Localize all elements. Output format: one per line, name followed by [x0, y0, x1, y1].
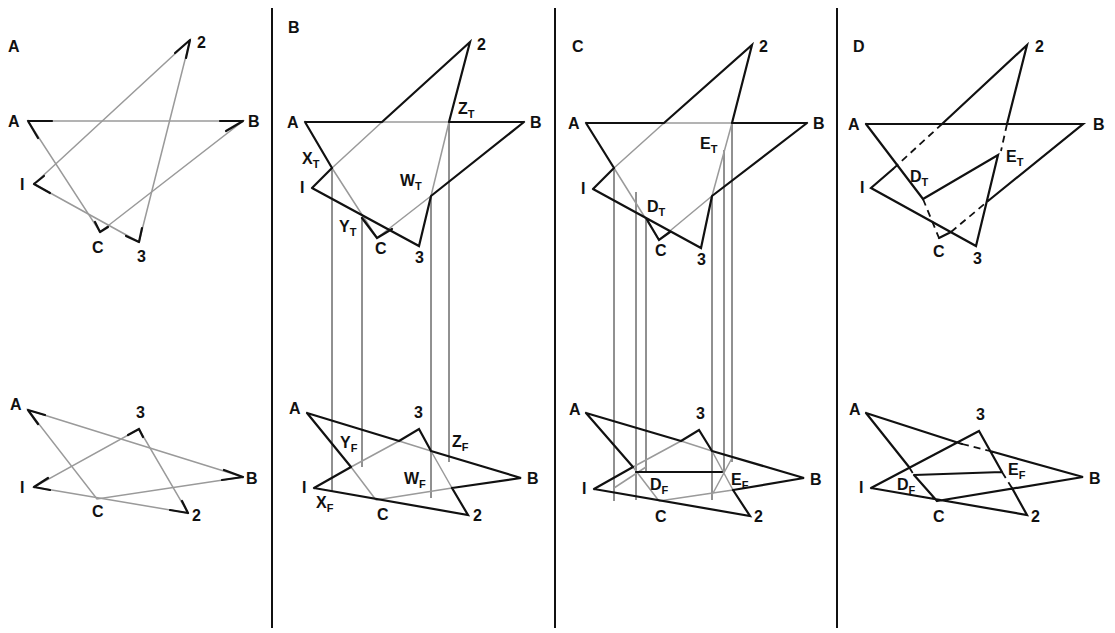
- hidden-edges: [351, 441, 452, 500]
- front-view: A B C I 2 3 DF EF: [569, 401, 822, 525]
- vertex-label-1: I: [860, 179, 864, 196]
- front-view: A B C I 2 3: [10, 396, 258, 524]
- hidden-edges: [614, 123, 732, 240]
- front-view: A B C I 2 3 DF EF: [849, 401, 1101, 525]
- visible-edges: [866, 413, 1083, 515]
- panel-b: B A B C I 2 3 XT YT WT ZT A: [287, 19, 542, 524]
- top-view: A B C I 2 3 XT YT WT ZT: [287, 36, 542, 266]
- vertex-label-c: C: [92, 239, 104, 256]
- vertex-label-b: B: [246, 470, 258, 487]
- vertex-label-b: B: [1093, 116, 1105, 133]
- top-view: A B C I 2 3 DT ET: [848, 38, 1105, 267]
- vertex-label-a: A: [849, 401, 861, 418]
- vertex-label-b: B: [527, 470, 539, 487]
- vertex-label-3: 3: [696, 405, 705, 422]
- vertex-label-b: B: [530, 114, 542, 131]
- visible-edges: [586, 413, 804, 516]
- panel-c: C A B C I 2 3 DT ET A B C I: [568, 38, 825, 525]
- point-label-yf: YF: [340, 434, 358, 454]
- plane-abc: [28, 410, 243, 499]
- vertex-label-b: B: [248, 113, 260, 130]
- panel-title: C: [572, 38, 584, 55]
- vertex-label-2: 2: [759, 38, 768, 55]
- visible-edges: [305, 42, 524, 246]
- vertex-label-c: C: [377, 506, 389, 523]
- panel-a: A A B C I 2 3 A B C I 2 3: [8, 34, 260, 524]
- vertex-label-a: A: [289, 400, 301, 417]
- point-label-et: ET: [700, 135, 718, 155]
- vertex-label-c: C: [655, 508, 667, 525]
- panel-title: A: [8, 38, 20, 55]
- vertex-label-c: C: [375, 240, 387, 257]
- vertex-label-1: I: [581, 180, 585, 197]
- vertex-label-c: C: [933, 243, 945, 260]
- intersection-of-planes-diagram: A A B C I 2 3 A B C I 2 3 B: [0, 0, 1115, 633]
- vertex-label-b: B: [1089, 470, 1101, 487]
- point-label-wf: WF: [404, 470, 426, 490]
- point-label-xf: XF: [316, 494, 334, 514]
- vertex-label-a: A: [10, 396, 22, 413]
- vertex-label-1: I: [302, 479, 306, 496]
- top-view: A B C I 2 3: [8, 34, 260, 265]
- vertex-label-a: A: [848, 116, 860, 133]
- vertex-label-c: C: [933, 508, 945, 525]
- vertex-label-b: B: [810, 471, 822, 488]
- vertex-label-2: 2: [197, 34, 206, 51]
- vertex-label-1: I: [300, 179, 304, 196]
- visible-edges: [866, 45, 1083, 246]
- vertex-label-3: 3: [973, 250, 982, 267]
- vertex-label-1: I: [20, 479, 24, 496]
- point-label-dt: DT: [647, 198, 666, 218]
- vertex-ticks: [28, 40, 243, 242]
- vertex-label-1: I: [20, 176, 24, 193]
- vertex-label-3: 3: [415, 249, 424, 266]
- panel-d: D A B C I 2 3 DT ET A B C I 2 3 DF EF: [848, 38, 1105, 525]
- vertex-ticks: [28, 410, 243, 513]
- front-view: A B C I 2 3 XF YF WF ZF: [289, 400, 539, 524]
- vertex-label-a: A: [287, 114, 299, 131]
- vertex-label-a: A: [568, 115, 580, 132]
- vertex-label-3: 3: [976, 406, 985, 423]
- plane-123: [34, 40, 190, 242]
- vertex-label-c: C: [92, 503, 104, 520]
- vertex-label-3: 3: [137, 248, 146, 265]
- point-label-zt: ZT: [458, 100, 475, 120]
- point-label-et: ET: [1006, 148, 1024, 168]
- vertex-label-1: I: [582, 480, 586, 497]
- vertex-label-2: 2: [1035, 38, 1044, 55]
- vertex-label-c: C: [655, 242, 667, 259]
- vertex-label-3: 3: [414, 404, 423, 421]
- vertex-label-1: I: [859, 479, 863, 496]
- point-label-ef: EF: [1008, 461, 1026, 481]
- point-label-zf: ZF: [452, 433, 469, 453]
- plane-abc: [28, 121, 243, 232]
- vertex-label-2: 2: [192, 507, 201, 524]
- point-label-yt: YT: [339, 218, 357, 238]
- panel-title: D: [853, 38, 865, 55]
- visible-edges: [307, 413, 521, 515]
- vertex-label-a: A: [8, 113, 20, 130]
- hidden-edges: [909, 444, 1012, 488]
- vertex-label-3: 3: [136, 404, 145, 421]
- vertex-label-3: 3: [697, 251, 706, 268]
- plane-123: [34, 429, 188, 513]
- visible-edges: [586, 45, 807, 248]
- point-label-wt: WT: [400, 172, 422, 192]
- vertex-label-b: B: [813, 115, 825, 132]
- point-label-xt: XT: [302, 150, 320, 170]
- vertex-label-2: 2: [473, 507, 482, 524]
- vertex-label-a: A: [569, 401, 581, 418]
- vertex-label-2: 2: [754, 508, 763, 525]
- top-view: A B C I 2 3 DT ET: [568, 38, 825, 268]
- panel-title: B: [288, 19, 300, 36]
- vertex-label-2: 2: [1031, 508, 1040, 525]
- projection-lines: [614, 123, 732, 501]
- vertex-label-2: 2: [477, 36, 486, 53]
